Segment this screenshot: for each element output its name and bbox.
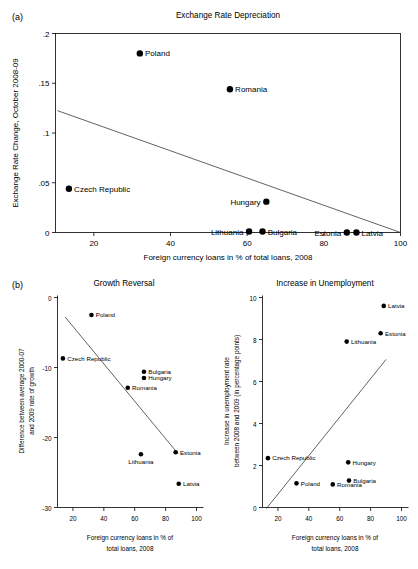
data-point [173,450,178,455]
x-tick-label: 100 [396,515,407,522]
data-point [61,356,66,361]
data-point-label: Hungary [353,459,377,466]
chart-b2-title: Increase in Unemployment [276,279,374,288]
x-tick-label: 20 [274,515,282,522]
chart-b1-x-ticks: 20406080100 [69,508,202,522]
data-point [142,369,147,374]
chart-b2-xlabel-line1: Foreign currency loans in % of [292,534,379,542]
x-tick-label: 20 [89,239,98,248]
x-tick-label: 40 [305,515,313,522]
y-tick-label: 10 [249,295,257,302]
chart-b1-ylabel-line2: and 2009 rate of growth [28,367,36,435]
data-point [344,339,349,344]
data-point [176,481,181,486]
data-point [353,229,359,235]
y-tick-label: 0 [45,229,50,238]
data-point-label: Poland [96,311,116,318]
chart-b2-svg: Increase in Unemployment 0246810 2040608… [209,268,418,568]
y-tick-label: -20 [42,435,52,442]
panel-b-letter: (b) [12,280,23,290]
x-tick-label: 100 [191,515,202,522]
y-tick-label: 2 [253,463,257,470]
chart-a-ylabel: Exchange Rate Change, October 2008-09 [11,58,20,208]
chart-b2-ylabel-line2: between 2008 and 2009 (in percentage poi… [233,335,241,467]
y-tick-label: .05 [38,179,50,188]
data-point-label: Estonia [314,229,341,238]
data-point [294,481,299,486]
data-point-label: Latvia [388,302,405,309]
regression-line [266,359,386,508]
chart-b2-y-ticks: 0246810 [249,295,262,512]
chart-b2-ylabel-line1: Increase in unemployment rate [223,357,231,445]
data-point [346,460,351,465]
y-tick-label: 4 [253,421,257,428]
data-point-label: Lithuania [128,458,154,465]
y-tick-label: 0 [48,295,52,302]
data-point [259,228,265,234]
chart-b1-title: Growth Reversal [94,279,155,288]
y-tick-label: 0 [253,505,257,512]
data-point-label: Poland [145,49,170,58]
y-tick-label: .1 [43,129,50,138]
chart-b2-x-ticks: 20406080100 [274,508,407,522]
x-tick-label: 60 [131,515,139,522]
data-point-label: Czech Republic [67,355,110,362]
data-point-label: Latvia [362,229,384,238]
chart-a-svg: (a) Exchange Rate Depreciation 0.05.1.15… [0,0,418,268]
x-tick-label: 40 [100,515,108,522]
chart-b2-fit-line [266,359,386,508]
data-point-label: Bulgaria [268,228,298,237]
chart-a-fit-line [57,111,400,233]
chart-a-xlabel: Foreign currency loans in % of total loa… [144,253,314,262]
data-point [266,456,271,461]
data-point-label: Hungary [148,374,172,381]
data-point [139,452,144,457]
data-point-label: Hungary [230,198,260,207]
chart-b2-points: LatviaEstoniaLithuaniaCzech RepublicHung… [266,302,407,488]
chart-a-title: Exchange Rate Depreciation [176,11,281,20]
x-tick-label: 80 [319,239,328,248]
chart-b2-axes [263,296,409,508]
x-tick-label: 60 [336,515,344,522]
chart-a-frame [56,34,401,233]
panel-b-increase-in-unemployment: Increase in Unemployment 0246810 2040608… [209,268,418,568]
data-point [344,229,350,235]
data-point [378,331,383,336]
chart-a-x-ticks: 20406080100 [89,233,407,248]
panel-a-letter: (a) [12,12,23,22]
data-point-label: Poland [301,480,321,487]
data-point [125,386,130,391]
data-point [137,50,143,56]
data-point-label: Lithuania [351,338,377,345]
y-tick-label: .2 [43,30,50,39]
data-point [263,198,269,204]
data-point [227,86,233,92]
data-point-label: Czech Republic [74,185,130,194]
chart-b1-fit-line [65,317,178,454]
x-tick-label: 80 [162,515,170,522]
chart-b1-ylabel-line1: Difference between average 2000-07 [18,348,26,453]
y-tick-label: 6 [253,379,257,386]
data-point-label: Estonia [385,330,406,337]
data-point-label: Romania [235,85,268,94]
data-point-label: Czech Republic [272,454,315,461]
x-tick-label: 40 [166,239,175,248]
data-point [246,228,252,234]
x-tick-label: 100 [394,239,408,248]
data-point [66,186,72,192]
data-point [381,304,386,309]
regression-line [57,111,400,233]
data-point-label: Latvia [183,480,200,487]
data-point-label: Estonia [180,449,201,456]
y-tick-label: .15 [38,79,50,88]
data-point [142,376,147,381]
chart-b1-xlabel-line1: Foreign currency loans in % of [87,534,174,542]
chart-a-y-ticks: 0.05.1.15.2 [38,30,55,238]
chart-b2-xlabel-line2: total loans, 2008 [312,545,359,552]
x-tick-label: 80 [367,515,375,522]
regression-line [65,317,178,454]
data-point [330,482,335,487]
data-point-label: Lithuania [211,228,244,237]
figure-container: (a) Exchange Rate Depreciation 0.05.1.15… [0,0,418,569]
y-tick-label: 8 [253,337,257,344]
